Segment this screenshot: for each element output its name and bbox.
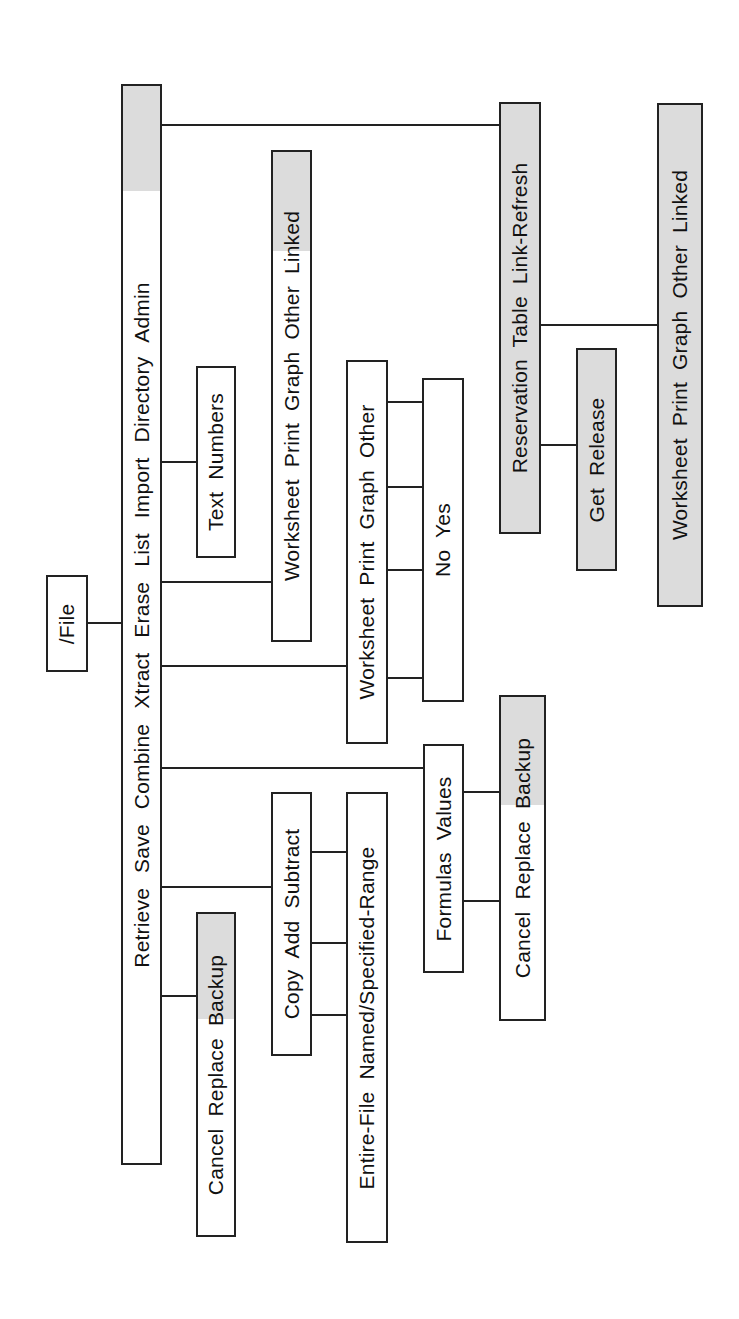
erase-submenu-label: Worksheet Print Graph Other bbox=[355, 405, 379, 700]
save-submenu-box: Cancel Replace Backup bbox=[196, 912, 236, 1237]
save-submenu-label: Cancel Replace Backup bbox=[204, 954, 228, 1194]
connector-import bbox=[162, 461, 196, 463]
erase-confirm-box: No Yes bbox=[422, 378, 464, 702]
connector-erase-other bbox=[388, 401, 422, 403]
xtract-submenu-label: Formulas Values bbox=[432, 776, 456, 941]
reservation-submenu-box: Get Release bbox=[576, 348, 617, 571]
erase-confirm-label: No Yes bbox=[431, 503, 455, 577]
connector-admin bbox=[162, 124, 499, 126]
connector-list bbox=[162, 581, 271, 583]
connector-reservation bbox=[541, 444, 576, 446]
connector-erase-print bbox=[388, 569, 422, 571]
root-file-label: /File bbox=[55, 603, 79, 644]
connector-combine bbox=[162, 886, 271, 888]
admin-submenu-box: Reservation Table Link-Refresh bbox=[499, 102, 541, 534]
connector-erase-graph bbox=[388, 486, 422, 488]
connector-copy bbox=[312, 1014, 346, 1016]
reservation-submenu-label: Get Release bbox=[585, 397, 609, 522]
connector-erase-worksheet bbox=[388, 677, 422, 679]
connector-formulas bbox=[464, 900, 499, 902]
main-menu-box: Retrieve Save Combine Xtract Erase List … bbox=[121, 84, 162, 1165]
connector-values bbox=[464, 791, 499, 793]
import-submenu-label: Text Numbers bbox=[204, 393, 228, 531]
root-file-box: /File bbox=[46, 575, 88, 672]
connector-xtract bbox=[162, 767, 423, 769]
connector-table bbox=[541, 324, 657, 326]
table-submenu-label: Worksheet Print Graph Other Linked bbox=[668, 170, 692, 540]
combine-submenu-label: Copy Add Subtract bbox=[280, 829, 304, 1020]
xtract-confirm-box: Cancel Replace Backup bbox=[499, 695, 546, 1021]
list-submenu-box: Worksheet Print Graph Other Linked bbox=[271, 150, 312, 642]
xtract-submenu-box: Formulas Values bbox=[423, 744, 464, 973]
connector-save bbox=[162, 995, 196, 997]
combine-range-box: Entire-File Named/Specified-Range bbox=[346, 792, 388, 1243]
admin-shade bbox=[123, 86, 160, 191]
xtract-confirm-label: Cancel Replace Backup bbox=[511, 738, 535, 978]
connector-add bbox=[312, 942, 346, 944]
erase-submenu-box: Worksheet Print Graph Other bbox=[346, 360, 388, 744]
import-submenu-box: Text Numbers bbox=[196, 366, 236, 558]
list-submenu-label: Worksheet Print Graph Other Linked bbox=[280, 211, 304, 581]
connector-root-main bbox=[88, 622, 121, 624]
combine-submenu-box: Copy Add Subtract bbox=[271, 792, 312, 1056]
combine-range-label: Entire-File Named/Specified-Range bbox=[355, 846, 379, 1189]
table-submenu-box: Worksheet Print Graph Other Linked bbox=[657, 103, 703, 607]
connector-erase bbox=[162, 665, 346, 667]
connector-subtract bbox=[312, 851, 346, 853]
admin-submenu-label: Reservation Table Link-Refresh bbox=[508, 163, 532, 474]
main-menu-label: Retrieve Save Combine Xtract Erase List … bbox=[130, 282, 154, 967]
